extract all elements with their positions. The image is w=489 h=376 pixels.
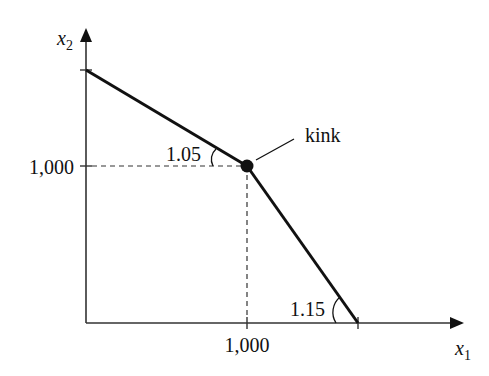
kinked-budget-diagram: x2 x1 1,000 1,000 kink 1.05 1.15 [0, 0, 489, 376]
kink-pointer [256, 139, 294, 160]
y-tick-label: 1,000 [29, 156, 74, 178]
x-axis-label: x1 [454, 337, 471, 363]
lower-slope-label: 1.15 [290, 298, 325, 320]
y-axis-label: x2 [56, 27, 73, 53]
upper-slope-label: 1.05 [166, 143, 201, 165]
kink-point [241, 160, 254, 173]
x-tick-label: 1,000 [225, 334, 270, 356]
angle-arc-upper [211, 149, 216, 166]
kink-label: kink [305, 124, 341, 146]
y-axis-arrow-icon [80, 28, 92, 42]
angle-arc-lower [333, 297, 340, 323]
x-axis-arrow-icon [450, 317, 464, 329]
